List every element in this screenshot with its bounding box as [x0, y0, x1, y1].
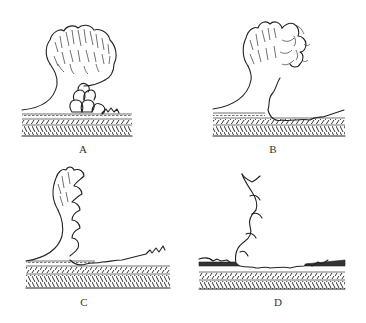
branched-head	[46, 25, 116, 80]
netted-cells	[280, 23, 310, 67]
panel-c	[26, 167, 170, 288]
panel-a	[22, 25, 132, 136]
stalk	[22, 64, 105, 110]
diagram-canvas	[0, 0, 366, 323]
panel-label-b: B	[269, 143, 276, 155]
substrate-layers	[26, 261, 170, 288]
remnant-strand	[235, 174, 262, 264]
substrate-layers	[199, 258, 345, 289]
panel-d	[199, 174, 345, 289]
panel-label-d: D	[274, 296, 282, 308]
panel-label-c: C	[80, 296, 87, 308]
branched-head	[243, 22, 282, 66]
panel-b	[213, 22, 345, 136]
scalloped-margin	[70, 169, 84, 256]
substrate-layers	[22, 114, 132, 136]
stalk	[26, 210, 165, 265]
branched-head	[53, 167, 74, 210]
stalk	[213, 66, 344, 121]
panel-label-a: A	[79, 143, 87, 155]
cell-cluster	[70, 83, 119, 114]
